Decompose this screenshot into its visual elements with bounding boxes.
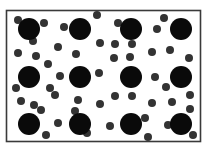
small-particle — [14, 49, 22, 57]
small-particle — [151, 73, 159, 81]
small-particle — [51, 91, 59, 99]
small-particle — [128, 92, 136, 100]
small-particle — [95, 69, 103, 77]
small-particle — [128, 40, 136, 48]
small-particle — [111, 40, 119, 48]
small-particle — [111, 92, 119, 100]
large-particle — [120, 18, 142, 40]
large-particle — [69, 66, 91, 88]
small-particle — [54, 119, 62, 127]
large-particle — [69, 18, 91, 40]
small-particle — [17, 97, 25, 105]
large-particles-group — [18, 18, 192, 135]
small-particle — [186, 91, 194, 99]
large-particle — [120, 66, 142, 88]
small-particle — [72, 50, 80, 58]
small-particle — [186, 105, 194, 113]
small-particle — [153, 25, 161, 33]
small-particle — [44, 60, 52, 68]
small-particle — [30, 101, 38, 109]
small-particle — [166, 46, 174, 54]
large-particle — [69, 113, 91, 135]
large-particle — [170, 113, 192, 135]
small-particle — [141, 114, 149, 122]
small-particle — [37, 106, 45, 114]
small-particle — [148, 48, 156, 56]
small-particle — [106, 122, 114, 130]
small-particle — [160, 14, 168, 22]
large-particle — [170, 18, 192, 40]
small-particle — [32, 52, 40, 60]
small-particle — [189, 131, 197, 139]
small-particle — [60, 23, 68, 31]
small-particle — [96, 39, 104, 47]
small-particle — [96, 100, 104, 108]
small-particle — [168, 98, 176, 106]
large-particle — [170, 66, 192, 88]
small-particle — [144, 133, 152, 141]
small-particle — [148, 99, 156, 107]
small-particle — [40, 19, 48, 27]
large-particle — [18, 66, 40, 88]
small-particle — [56, 72, 64, 80]
large-particle — [18, 113, 40, 135]
small-particle — [42, 131, 50, 139]
large-particle — [120, 113, 142, 135]
particle-diagram — [0, 0, 208, 146]
small-particle — [46, 84, 54, 92]
small-particle — [12, 84, 20, 92]
small-particle — [54, 43, 62, 51]
small-particle — [93, 11, 101, 19]
small-particle — [126, 53, 134, 61]
small-particle — [74, 96, 82, 104]
small-particle — [162, 83, 170, 91]
small-particle — [110, 54, 118, 62]
small-particle — [185, 54, 193, 62]
large-particle — [18, 18, 40, 40]
